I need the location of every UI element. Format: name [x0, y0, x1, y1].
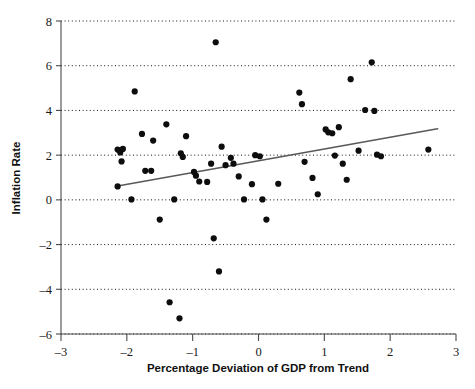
data-point	[425, 146, 431, 152]
data-point	[301, 159, 307, 165]
data-point	[230, 161, 236, 167]
data-point	[118, 158, 124, 164]
y-tick-label: 2	[46, 149, 52, 163]
data-point	[115, 183, 121, 189]
y-tick-label: –4	[39, 283, 53, 297]
data-point	[163, 121, 169, 127]
data-point	[142, 168, 148, 174]
y-tick-label: 0	[46, 193, 52, 207]
data-point	[378, 153, 384, 159]
y-tick-label: –6	[39, 328, 53, 342]
tick-marks-group	[56, 21, 456, 341]
data-point	[176, 315, 182, 321]
y-axis-title: Inflation Rate	[10, 142, 22, 215]
data-point	[371, 108, 377, 114]
data-point	[132, 88, 138, 94]
data-point	[257, 153, 263, 159]
y-tick-label: 6	[46, 59, 52, 73]
y-tick-label: 4	[46, 104, 53, 118]
x-tick-label: –3	[54, 345, 68, 359]
data-point	[157, 216, 163, 222]
data-point	[369, 59, 375, 65]
trend-line	[118, 129, 438, 186]
data-point	[213, 39, 219, 45]
data-point	[249, 181, 255, 187]
data-point	[241, 196, 247, 202]
x-tick-label: 1	[321, 345, 327, 359]
data-point	[362, 107, 368, 113]
data-point	[355, 148, 361, 154]
y-tick-labels: –6–4–202468	[39, 15, 53, 342]
data-point	[183, 133, 189, 139]
data-point	[196, 178, 202, 184]
x-tick-label: 2	[387, 345, 393, 359]
data-point	[139, 131, 145, 137]
data-point	[329, 130, 335, 136]
data-point	[120, 146, 126, 152]
trend-line-segment	[118, 129, 438, 186]
data-point	[259, 196, 265, 202]
data-point	[171, 196, 177, 202]
data-point	[219, 144, 225, 150]
data-point	[296, 89, 302, 95]
x-tick-label: 3	[453, 345, 459, 359]
data-point	[315, 191, 321, 197]
axes-group	[61, 21, 456, 334]
data-point	[222, 162, 228, 168]
y-tick-label: 8	[46, 15, 52, 29]
y-tick-label: –2	[39, 238, 53, 252]
data-point	[216, 268, 222, 274]
data-point	[180, 154, 186, 160]
data-point	[150, 138, 156, 144]
data-point	[344, 177, 350, 183]
plot-area: –6–4–202468 –3–2–10123 Percentage Deviat…	[0, 0, 475, 389]
x-tick-label: –1	[185, 345, 199, 359]
data-point	[263, 216, 269, 222]
data-point	[309, 175, 315, 181]
data-point	[228, 155, 234, 161]
data-point	[348, 76, 354, 82]
data-point	[204, 179, 210, 185]
data-point	[211, 235, 217, 241]
data-point	[340, 161, 346, 167]
x-axis-title: Percentage Deviation of GDP from Trend	[147, 362, 369, 374]
data-point	[236, 173, 242, 179]
data-point	[148, 168, 154, 174]
data-point	[193, 173, 199, 179]
x-tick-labels: –3–2–10123	[54, 345, 459, 359]
data-point	[332, 152, 338, 158]
gridlines-group	[61, 21, 456, 334]
data-point	[336, 124, 342, 130]
data-point	[128, 196, 134, 202]
data-point	[275, 181, 281, 187]
data-points-group	[115, 39, 432, 321]
x-tick-label: 0	[255, 345, 261, 359]
data-point	[299, 101, 305, 107]
data-point	[208, 161, 214, 167]
scatter-chart: –6–4–202468 –3–2–10123 Percentage Deviat…	[0, 0, 475, 389]
data-point	[167, 299, 173, 305]
x-tick-label: –2	[120, 345, 134, 359]
